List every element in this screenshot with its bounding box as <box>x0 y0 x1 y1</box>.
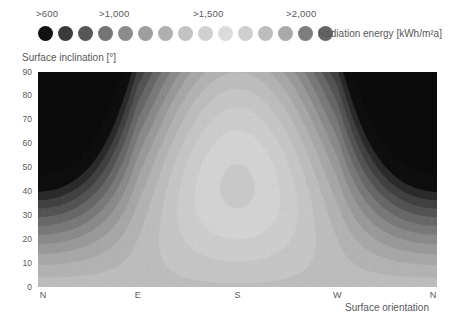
x-axis-title: Surface orientation <box>345 302 429 313</box>
x-axis-tick: S <box>231 290 245 300</box>
y-axis-tick: 80 <box>10 91 32 100</box>
legend-tick-label: >1,000 <box>99 8 130 19</box>
legend-swatch-dot <box>278 26 293 41</box>
legend-swatch-dot <box>298 26 313 41</box>
legend-tick-labels: >600>1,000>1,500>2,000 <box>0 8 464 22</box>
legend-swatch-dot <box>178 26 193 41</box>
legend-swatch-dot <box>98 26 113 41</box>
x-axis-tick: W <box>330 290 344 300</box>
x-axis-tick: N <box>426 290 440 300</box>
legend-swatch-dot <box>258 26 273 41</box>
figure-root: >600>1,000>1,500>2,000 Radiation energy … <box>0 0 464 323</box>
y-axis-tick: 10 <box>10 259 32 268</box>
legend-swatch-dot <box>78 26 93 41</box>
legend-title: Radiation energy [kWh/m²a] <box>318 28 442 39</box>
y-axis-tick: 90 <box>10 68 32 77</box>
legend-swatch-dot <box>198 26 213 41</box>
legend-swatch-dot <box>58 26 73 41</box>
y-axis-tick: 0 <box>10 283 32 292</box>
legend-swatch-dot <box>158 26 173 41</box>
x-axis-tick: N <box>36 290 50 300</box>
contour-plot-svg <box>38 72 437 287</box>
legend-swatch-dot <box>238 26 253 41</box>
y-axis-tick: 30 <box>10 211 32 220</box>
legend: >600>1,000>1,500>2,000 Radiation energy … <box>0 0 464 52</box>
x-axis-tick: E <box>131 290 145 300</box>
y-axis-tick: 40 <box>10 187 32 196</box>
legend-tick-label: >600 <box>36 8 58 19</box>
legend-tick-label: >1,500 <box>193 8 224 19</box>
y-axis-tick: 20 <box>10 235 32 244</box>
legend-swatch-dot <box>218 26 233 41</box>
legend-tick-label: >2,000 <box>286 8 317 19</box>
y-axis-tick: 50 <box>10 163 32 172</box>
y-axis-tick: 70 <box>10 115 32 124</box>
legend-swatch-dot <box>118 26 133 41</box>
y-axis-title: Surface inclination [°] <box>22 52 116 63</box>
legend-swatch-dot <box>38 26 53 41</box>
legend-swatch-dot <box>138 26 153 41</box>
y-axis-tick: 60 <box>10 139 32 148</box>
contour-plot-area <box>38 72 437 287</box>
